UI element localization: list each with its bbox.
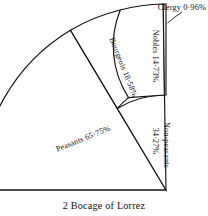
figure-caption: 2 Bocage of Lorrez xyxy=(63,200,146,211)
label-non-peasants-line2: 34·27% xyxy=(151,128,160,155)
label-non-peasants-line1: Non-peasants xyxy=(162,122,171,168)
fan-diagram-figure: Peasants 65·75% Non-peasants 34·27% Bour… xyxy=(0,0,208,216)
clergy-leader-line xyxy=(168,12,183,23)
label-nobles: Nobles 14·73% xyxy=(151,30,160,83)
fan-diagram-svg: Peasants 65·75% Non-peasants 34·27% Bour… xyxy=(0,0,208,216)
label-clergy: Clergy 0·96% xyxy=(158,3,206,12)
